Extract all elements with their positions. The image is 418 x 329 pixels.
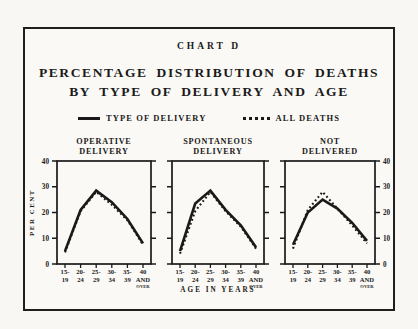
svg-text:40: 40 — [140, 268, 147, 275]
legend-label: ALL DEATHS — [276, 113, 340, 123]
svg-text:30-: 30- — [221, 268, 230, 275]
svg-text:40: 40 — [364, 268, 371, 275]
svg-text:29: 29 — [207, 276, 214, 283]
svg-text:0: 0 — [383, 261, 387, 269]
svg-text:40: 40 — [42, 158, 50, 166]
svg-text:20-: 20- — [191, 268, 200, 275]
figure-title-line1: PERCENTAGE DISTRIBUTION OF DEATHS — [25, 65, 393, 81]
chart-label: CHART D — [25, 41, 393, 51]
svg-text:15-: 15- — [289, 268, 298, 275]
solid-line-sample-icon — [78, 117, 100, 120]
svg-text:29: 29 — [319, 276, 326, 283]
svg-text:24: 24 — [77, 276, 84, 283]
svg-text:34: 34 — [334, 276, 341, 283]
svg-text:25-: 25- — [206, 268, 215, 275]
svg-text:10: 10 — [383, 235, 391, 243]
svg-text:25-: 25- — [318, 268, 327, 275]
svg-text:24: 24 — [305, 276, 312, 283]
svg-text:DELIVERY: DELIVERY — [193, 147, 242, 156]
legend: TYPE OF DELIVERY ALL DEATHS — [25, 113, 393, 123]
svg-text:AGE IN YEARS: AGE IN YEARS — [180, 286, 255, 294]
svg-text:19: 19 — [177, 276, 184, 283]
legend-label: TYPE OF DELIVERY — [106, 113, 207, 123]
svg-text:20: 20 — [42, 209, 50, 217]
svg-text:OPERATIVE: OPERATIVE — [76, 137, 131, 146]
svg-text:20: 20 — [383, 209, 391, 217]
svg-text:19: 19 — [62, 276, 69, 283]
svg-text:35-: 35- — [236, 268, 245, 275]
svg-text:30: 30 — [42, 183, 50, 191]
svg-text:DELIVERED: DELIVERED — [302, 147, 358, 156]
svg-text:10: 10 — [42, 235, 50, 243]
svg-text:30: 30 — [383, 183, 391, 191]
charts-canvas: OPERATIVEDELIVERY010203040PER CENT15-192… — [25, 135, 393, 297]
svg-text:24: 24 — [192, 276, 199, 283]
svg-text:35-: 35- — [348, 268, 357, 275]
svg-text:AND: AND — [136, 276, 151, 283]
svg-text:40: 40 — [253, 268, 260, 275]
svg-text:25-: 25- — [92, 268, 101, 275]
svg-text:AND: AND — [249, 276, 264, 283]
svg-text:40: 40 — [383, 158, 391, 166]
legend-item-all-deaths: ALL DEATHS — [243, 113, 340, 123]
svg-text:30-: 30- — [333, 268, 342, 275]
svg-text:39: 39 — [349, 276, 356, 283]
figure-frame: CHART D PERCENTAGE DISTRIBUTION OF DEATH… — [23, 27, 395, 311]
svg-text:39: 39 — [124, 276, 131, 283]
svg-text:20-: 20- — [76, 268, 85, 275]
svg-text:NOT: NOT — [320, 137, 340, 146]
figure-title-line2: BY TYPE OF DELIVERY AND AGE — [25, 84, 393, 100]
svg-text:PER CENT: PER CENT — [28, 189, 35, 236]
svg-text:20-: 20- — [303, 268, 312, 275]
svg-text:OVER: OVER — [360, 284, 374, 289]
svg-text:15-: 15- — [176, 268, 185, 275]
svg-text:SPONTANEOUS: SPONTANEOUS — [183, 137, 253, 146]
svg-text:34: 34 — [222, 276, 229, 283]
svg-text:OVER: OVER — [136, 284, 150, 289]
svg-text:39: 39 — [238, 276, 245, 283]
svg-text:19: 19 — [290, 276, 297, 283]
svg-text:35-: 35- — [123, 268, 132, 275]
legend-item-type-of-delivery: TYPE OF DELIVERY — [78, 113, 207, 123]
svg-text:DELIVERY: DELIVERY — [79, 147, 128, 156]
svg-text:15-: 15- — [61, 268, 70, 275]
dotted-line-sample-icon — [243, 117, 270, 120]
svg-text:29: 29 — [93, 276, 100, 283]
svg-text:30-: 30- — [107, 268, 116, 275]
svg-text:34: 34 — [109, 276, 116, 283]
svg-text:AND: AND — [360, 276, 375, 283]
svg-text:0: 0 — [45, 261, 49, 269]
